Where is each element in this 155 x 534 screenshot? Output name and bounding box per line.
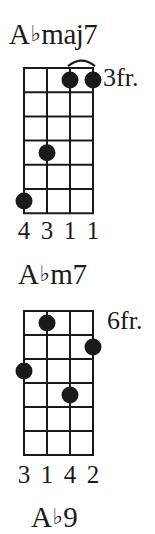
start-fret-label: 6fr. bbox=[107, 308, 142, 334]
finger-number: 3 bbox=[14, 462, 34, 487]
finger-dot bbox=[16, 193, 33, 210]
fingering-row-abmaj7: 4 3 1 1 bbox=[14, 218, 114, 244]
chord-root: A bbox=[18, 258, 38, 290]
chord-quality: 9 bbox=[63, 501, 77, 533]
start-fret-label: 3fr. bbox=[103, 65, 138, 91]
flat-sign: ♭ bbox=[39, 261, 49, 286]
finger-dot bbox=[85, 72, 102, 89]
finger-number: 2 bbox=[83, 462, 103, 487]
finger-dot bbox=[62, 387, 79, 404]
fingering-row-abm7: 3 1 4 2 bbox=[14, 462, 114, 488]
barre-arc bbox=[68, 61, 95, 67]
finger-number: 3 bbox=[37, 218, 57, 243]
finger-dot bbox=[62, 72, 79, 89]
chord-quality: m7 bbox=[50, 258, 86, 290]
finger-dot bbox=[16, 363, 33, 380]
finger-dot bbox=[39, 144, 56, 161]
finger-number: 4 bbox=[14, 218, 34, 243]
flat-sign: ♭ bbox=[52, 504, 62, 529]
chord-title-abm7: A♭m7 bbox=[18, 260, 86, 289]
finger-dot bbox=[39, 315, 56, 332]
finger-number: 1 bbox=[37, 462, 57, 487]
finger-number: 1 bbox=[83, 218, 103, 243]
finger-dot bbox=[85, 339, 102, 356]
finger-number: 4 bbox=[60, 462, 80, 487]
chord-title-ab9: A♭9 bbox=[31, 503, 77, 532]
finger-number: 1 bbox=[60, 218, 80, 243]
chord-root: A bbox=[31, 501, 51, 533]
